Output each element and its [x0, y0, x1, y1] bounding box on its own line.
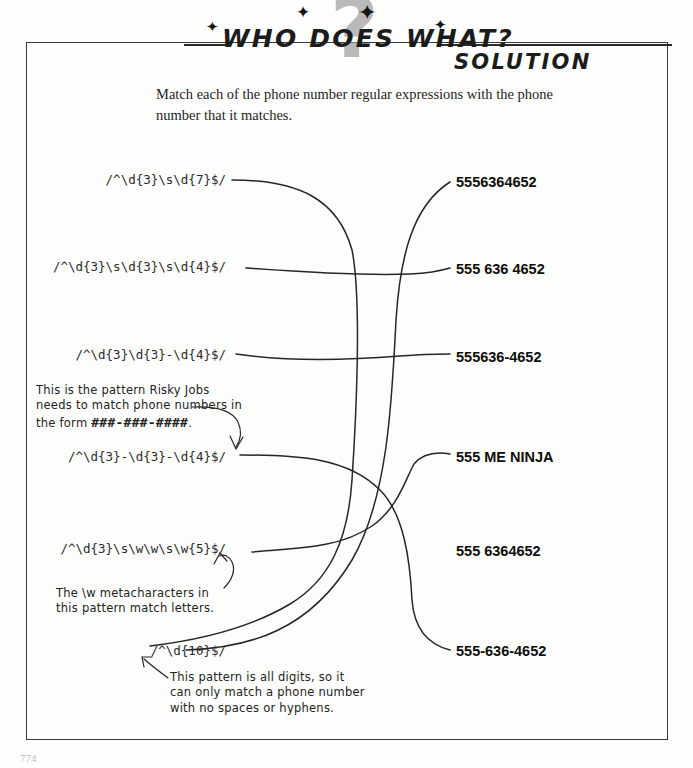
annotation-line: This is the pattern Risky Jobs: [36, 383, 242, 398]
annotation-line: The \w metacharacters in: [56, 586, 214, 601]
annotation-line-prefix: the form: [36, 416, 91, 430]
worksheet-page: ? ✦ ✦ ✦ ✦ WHO DOES WHAT? SOLUTION Match …: [0, 0, 693, 768]
annotation-all-digits: This pattern is all digits, so it can on…: [170, 670, 365, 716]
page-subtitle: SOLUTION: [454, 50, 591, 74]
annotation-risky-jobs: This is the pattern Risky Jobs needs to …: [36, 383, 242, 431]
instructions-text: Match each of the phone number regular e…: [156, 84, 556, 125]
regex-item-5: /^\d{3}\s\w\w\s\w{5}$/: [0, 541, 226, 556]
regex-item-1: /^\d{3}\s\d{7}$/: [0, 172, 226, 187]
annotation-line: needs to match phone numbers in: [36, 398, 242, 413]
sparkle-icon: ✦: [206, 20, 219, 35]
annotation-line: the form ###-###-####.: [36, 414, 242, 431]
phone-item-6: 555-636-4652: [456, 643, 546, 659]
page-title: WHO DOES WHAT?: [222, 24, 514, 53]
annotation-line: can only match a phone number: [170, 685, 365, 700]
phone-item-2: 555 636 4652: [456, 261, 545, 277]
regex-item-3: /^\d{3}\d{3}-\d{4}$/: [0, 347, 226, 362]
annotation-line: this pattern match letters.: [56, 601, 214, 616]
sparkle-icon: ✦: [296, 4, 310, 21]
regex-item-2: /^\d{3}\s\d{3}\s\d{4}$/: [0, 259, 226, 274]
annotation-metacharacters: The \w metacharacters in this pattern ma…: [56, 586, 214, 617]
annotation-line: with no spaces or hyphens.: [170, 701, 365, 716]
regex-item-6: /^\d{10}$/: [0, 643, 226, 658]
annotation-phone-format: ###-###-####: [91, 415, 188, 430]
phone-item-3: 555636-4652: [456, 349, 541, 365]
phone-item-5: 555 6364652: [456, 543, 541, 559]
phone-item-4: 555 ME NINJA: [456, 449, 554, 465]
sparkle-icon: ✦: [358, 2, 376, 24]
annotation-line-suffix: .: [188, 416, 192, 430]
phone-item-1: 5556364652: [456, 174, 537, 190]
regex-item-4: /^\d{3}-\d{3}-\d{4}$/: [0, 449, 226, 464]
page-number: 774: [20, 752, 37, 764]
annotation-line: This pattern is all digits, so it: [170, 670, 365, 685]
header-band: ? ✦ ✦ ✦ ✦ WHO DOES WHAT? SOLUTION: [0, 0, 693, 82]
